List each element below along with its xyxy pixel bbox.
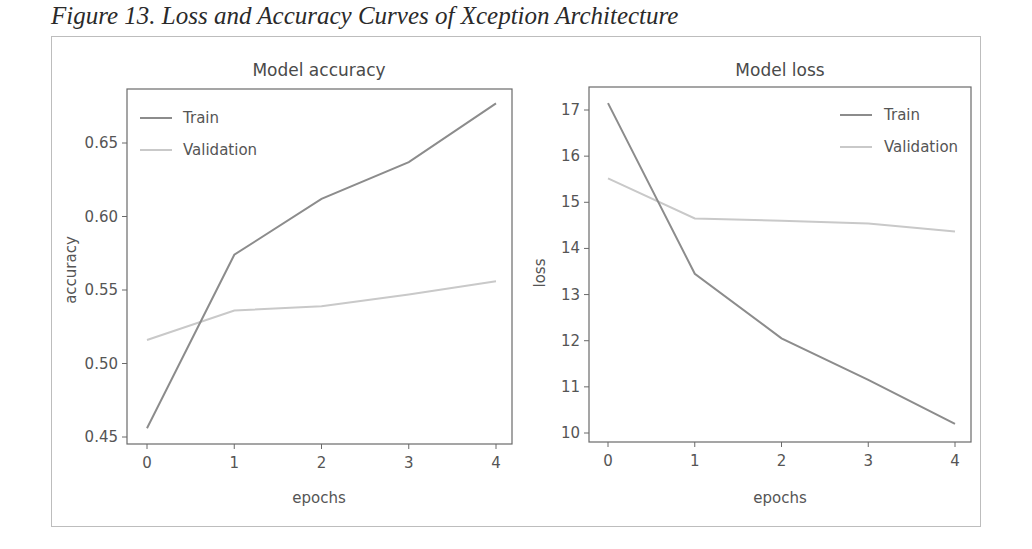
y-tick-label: 12 xyxy=(561,332,580,350)
figures-canvas: Model accuracy 0.450.500.550.600.65 0123… xyxy=(0,0,1032,549)
y-tick-label: 10 xyxy=(561,424,580,442)
accuracy-x-label: epochs xyxy=(292,489,346,507)
x-tick-label: 4 xyxy=(491,454,501,472)
accuracy-validation-line xyxy=(147,281,496,340)
accuracy-chart: Model accuracy 0.450.500.550.600.65 0123… xyxy=(62,60,512,507)
y-tick-label: 0.45 xyxy=(85,428,118,446)
accuracy-y-label: accuracy xyxy=(62,236,80,304)
y-tick-label: 0.55 xyxy=(85,281,118,299)
loss-y-ticks: 1011121314151617 xyxy=(561,101,589,442)
x-tick-label: 2 xyxy=(777,452,787,470)
loss-x-ticks: 01234 xyxy=(603,442,960,470)
loss-chart-title: Model loss xyxy=(735,60,824,80)
y-tick-label: 0.65 xyxy=(85,134,118,152)
loss-x-label: epochs xyxy=(753,489,807,507)
x-tick-label: 1 xyxy=(690,452,700,470)
legend-train-label: Train xyxy=(883,106,920,124)
x-tick-label: 3 xyxy=(863,452,873,470)
x-tick-label: 0 xyxy=(603,452,613,470)
accuracy-legend: Train Validation xyxy=(140,109,257,159)
y-tick-label: 0.50 xyxy=(85,355,118,373)
x-tick-label: 3 xyxy=(404,454,414,472)
y-tick-label: 14 xyxy=(561,239,580,257)
loss-legend: Train Validation xyxy=(840,106,958,156)
accuracy-chart-title: Model accuracy xyxy=(252,60,385,80)
y-tick-label: 15 xyxy=(561,193,580,211)
x-tick-label: 0 xyxy=(142,454,152,472)
loss-chart: Model loss 1011121314151617 01234 loss e… xyxy=(531,60,971,507)
y-tick-label: 16 xyxy=(561,147,580,165)
x-tick-label: 1 xyxy=(229,454,239,472)
y-tick-label: 17 xyxy=(561,101,580,119)
legend-train-label: Train xyxy=(182,109,219,127)
accuracy-x-ticks: 01234 xyxy=(142,444,501,472)
y-tick-label: 13 xyxy=(561,286,580,304)
y-tick-label: 0.60 xyxy=(85,208,118,226)
x-tick-label: 4 xyxy=(950,452,960,470)
x-tick-label: 2 xyxy=(317,454,327,472)
y-tick-label: 11 xyxy=(561,378,580,396)
legend-validation-label: Validation xyxy=(884,138,958,156)
legend-validation-label: Validation xyxy=(183,141,257,159)
accuracy-y-ticks: 0.450.500.550.600.65 xyxy=(85,134,127,446)
loss-y-label: loss xyxy=(531,258,549,287)
